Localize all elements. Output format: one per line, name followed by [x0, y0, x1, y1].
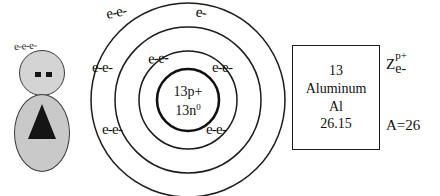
z-subscript-label: e- [395, 62, 407, 77]
figure-head [19, 50, 65, 96]
element-info-box: 13 Aluminum Al 26.15 [292, 45, 380, 150]
bohr-atom-diagram: 13p+ 13n0 e-e- e- e-e- e-e- e-e- e-e- e-… [88, 0, 288, 196]
nucleus-neutrons-value: 13n [175, 103, 196, 118]
z-stack: p+ e- [395, 50, 407, 76]
shell-label-outer-bottom-left: e-e- [102, 121, 122, 138]
shell-label-middle-top: e-e- [147, 49, 169, 68]
nucleus-neutrons-charge: 0 [196, 102, 201, 112]
figure-triangle-icon [28, 104, 56, 139]
z-letter-label: Z [386, 50, 395, 72]
figure-eye-right-icon [46, 72, 52, 77]
element-atomic-mass: 26.15 [320, 115, 352, 133]
mass-number-annotation: A=26 [386, 117, 420, 134]
figure-eye-left-icon [35, 72, 41, 77]
element-atomic-number: 13 [329, 62, 343, 80]
bohr-model-worksheet: e-e-e- 13p+ 13n0 e-e- e- e-e- e-e- e-e- … [0, 0, 440, 196]
z-superscript-label: p+ [395, 50, 407, 62]
z-annotation: Z p+ e- [386, 50, 407, 76]
shell-label-outer-bottom-right: e-e- [206, 121, 226, 138]
element-name: Aluminum [306, 80, 367, 98]
nucleus-protons-label: 13p+ [174, 84, 203, 99]
element-symbol: Al [329, 98, 343, 116]
cartoon-figure: e-e-e- [10, 38, 76, 174]
atom-svg: 13p+ 13n0 [88, 0, 288, 196]
shell-label-middle-left: e-e- [92, 59, 112, 76]
shell-label-middle-right: e-e- [212, 59, 232, 76]
